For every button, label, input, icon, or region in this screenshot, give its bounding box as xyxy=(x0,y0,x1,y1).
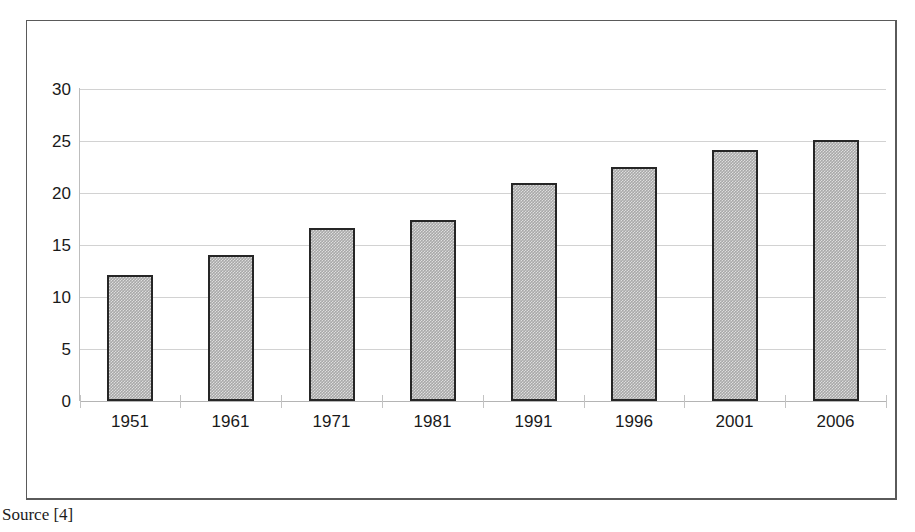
plot-area: 30 25 20 15 10 5 0 xyxy=(80,89,886,401)
bar[interactable] xyxy=(611,167,657,401)
bar[interactable] xyxy=(712,150,758,401)
bar[interactable] xyxy=(410,220,456,401)
x-axis-tick xyxy=(886,395,887,408)
bar-group: 1961 xyxy=(180,89,281,401)
x-axis-category-label: 2006 xyxy=(817,413,855,430)
bar-chart: 30 25 20 15 10 5 0 xyxy=(27,21,896,498)
x-axis-category-label: 2001 xyxy=(716,413,754,430)
y-axis-tick-label: 5 xyxy=(62,341,71,358)
x-axis-category-label: 1991 xyxy=(515,413,553,430)
y-axis-tick-label: 25 xyxy=(52,133,71,150)
x-axis-category-label: 1996 xyxy=(615,413,653,430)
bar-group: 1996 xyxy=(584,89,684,401)
y-axis-tick-label: 0 xyxy=(62,393,71,410)
y-axis-tick-label: 20 xyxy=(52,185,71,202)
x-axis-category-label: 1961 xyxy=(212,413,250,430)
bar-group: 1951 xyxy=(80,89,180,401)
bar[interactable] xyxy=(107,275,153,401)
bar[interactable] xyxy=(208,255,254,401)
x-axis-category-label: 1971 xyxy=(313,413,351,430)
source-caption: Source [4] xyxy=(2,505,73,525)
bar[interactable] xyxy=(813,140,859,401)
bar[interactable] xyxy=(511,183,557,401)
y-axis-tick-label: 10 xyxy=(52,289,71,306)
x-axis-category-label: 1951 xyxy=(111,413,149,430)
x-axis-category-label: 1981 xyxy=(414,413,452,430)
bar-group: 1981 xyxy=(382,89,483,401)
bar-group: 1971 xyxy=(281,89,382,401)
bar[interactable] xyxy=(309,228,355,401)
bar-group: 2001 xyxy=(684,89,785,401)
y-axis-tick-label: 15 xyxy=(52,237,71,254)
bar-group: 2006 xyxy=(785,89,886,401)
y-axis-tick-label: 30 xyxy=(52,81,71,98)
bar-group: 1991 xyxy=(483,89,584,401)
figure-frame: 30 25 20 15 10 5 0 xyxy=(26,20,897,500)
